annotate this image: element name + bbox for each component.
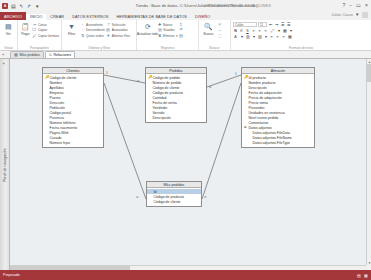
gridlines-icon[interactable]: ▥ (245, 34, 250, 39)
field-label[interactable]: Código de cliente (153, 200, 181, 204)
field-label[interactable]: Vendedor (152, 106, 168, 110)
nav-pane-expand-icon[interactable]: » (3, 61, 5, 66)
quick-access-toolbar[interactable]: A ▤ ↰ ↱ ▾ (0, 3, 40, 9)
align-left-icon[interactable]: ≡ (251, 28, 256, 33)
italic-button[interactable]: K (239, 28, 244, 33)
field-label[interactable]: Precio de adquisición (248, 96, 282, 100)
field-label[interactable]: Nombre producto (248, 81, 276, 85)
field-label[interactable]: Datos adjuntos.FileData (248, 131, 290, 135)
field-label[interactable]: Unidades en existencia (248, 111, 285, 115)
field-label[interactable]: Página Web (49, 131, 69, 135)
field-label[interactable]: Fecha nacimiento (49, 126, 78, 130)
field-label[interactable]: Puesto (49, 96, 61, 100)
ribbon-tabstrip[interactable]: ARCHIVO INICIO CREAR DATOS EXTERNOS HERR… (0, 11, 371, 20)
field-label[interactable]: Cantidad (152, 96, 167, 100)
increase-indent-icon[interactable]: ⇥ (274, 22, 279, 27)
status-view-buttons[interactable]: ▤ ▦ (357, 273, 371, 278)
seleccionar-button[interactable]: ⬚ (217, 33, 222, 38)
field-label[interactable]: Dirección (49, 101, 65, 105)
field-label[interactable]: Descripción (248, 86, 267, 90)
background-color-icon[interactable]: ▧ (257, 34, 262, 39)
quitar-orden-button[interactable]: ⇅ Quitar orden (80, 33, 105, 38)
layout-icon[interactable]: ▤ (357, 273, 361, 278)
field-label[interactable]: Código de producto (152, 91, 184, 95)
close-icon[interactable]: × (365, 3, 368, 8)
font-name-combo[interactable]: Calibri (233, 22, 257, 27)
user-account-area[interactable]: Julián Casas ▾ (331, 12, 368, 18)
bold-button[interactable]: N (233, 28, 238, 33)
datasheet-icon[interactable]: ▦ (287, 34, 292, 39)
ir-a-button[interactable]: → (217, 28, 222, 33)
align-middle-icon[interactable]: ≡ (275, 34, 280, 39)
borders-icon[interactable]: ▦ (282, 28, 287, 33)
field-label[interactable]: Datos adjuntos.FileType (248, 141, 291, 145)
field-label[interactable]: Apellidos (49, 86, 64, 90)
buscar-button[interactable]: 🔍 Buscar (201, 21, 216, 36)
field-label[interactable]: Servido (152, 111, 165, 115)
doctab-relaciones[interactable]: ⧉ Relaciones (45, 51, 75, 58)
restore-icon[interactable]: ▭ (356, 3, 361, 8)
ver-button[interactable]: ▤ Ver (2, 21, 15, 36)
field-label[interactable]: Código de producto (153, 195, 185, 199)
navigation-pane[interactable]: » Panel de navegación (0, 59, 10, 270)
redo-icon[interactable]: ↱ (26, 3, 32, 9)
font-color-icon[interactable]: A (233, 34, 238, 39)
field-label[interactable]: Descripción (152, 116, 171, 120)
highlight-icon[interactable]: 🖍 (269, 28, 275, 33)
field-label[interactable]: Proveedor (248, 106, 265, 110)
field-label[interactable]: Id producto (248, 76, 267, 80)
minimize-icon[interactable]: − (349, 3, 352, 8)
alternar-filtro-button[interactable]: ▼ Alternar filtro (106, 33, 130, 38)
table-box-mas-pedidos[interactable]: Más pedidos Id Código de producto Código… (146, 181, 202, 207)
field-label[interactable]: Código de cliente (49, 76, 77, 80)
vertical-scroll-thumb[interactable] (367, 64, 371, 82)
field-label[interactable]: Precio venta (248, 101, 268, 105)
tab-archivo[interactable]: ARCHIVO (0, 12, 26, 20)
doctab-mas-pedidos[interactable]: ▦ Más pedidos (10, 51, 44, 58)
field-label[interactable]: Nombre (49, 81, 62, 85)
field-label[interactable]: Número de pedido (152, 81, 182, 85)
field-label[interactable]: Población (49, 106, 65, 110)
field-label[interactable]: Número teléfono (49, 121, 76, 125)
relationships-canvas[interactable]: 1 ∞ ∞ 1 ∞ ∞ Clientes 🔑Código de cliente … (10, 59, 366, 270)
align-center-icon[interactable]: ≡ (257, 28, 262, 33)
ascendente-button[interactable]: ↑ Ascendente (80, 22, 105, 27)
undo-icon[interactable]: ↰ (18, 3, 24, 9)
pegar-button[interactable]: 📋 Pegar (20, 21, 31, 36)
gridlines-dropdown-icon[interactable]: ▾ (251, 34, 256, 39)
vertical-scrollbar[interactable]: ▲ ▼ (366, 59, 371, 265)
align-bottom-icon[interactable]: ≡ (269, 34, 274, 39)
field-label[interactable]: Número hijos (49, 141, 71, 145)
bullets-icon[interactable]: ☰ (280, 22, 285, 27)
table-box-almacen[interactable]: Almacén 🔑Id producto Nombre producto Des… (241, 67, 315, 148)
field-label[interactable]: Id (153, 190, 157, 194)
align-top-icon[interactable]: ≡ (281, 34, 286, 39)
chevron-down-icon[interactable]: ▾ (356, 12, 359, 17)
filtro-button[interactable]: ▼ Filtro (64, 21, 79, 36)
field-label[interactable]: Código de cliente (152, 86, 180, 90)
window-buttons[interactable]: ? − ▭ × (342, 3, 371, 8)
background-dropdown-icon[interactable]: ▾ (263, 34, 268, 39)
revision-ortografica-button[interactable]: ᵃᵇ (179, 28, 184, 33)
field-label[interactable]: Datos adjuntos.FileName (248, 136, 292, 140)
design-icon[interactable]: ▦ (364, 273, 368, 278)
field-label[interactable]: Fecha de venta (152, 101, 177, 105)
table-box-pedidos[interactable]: Pedidos 🔑Código de pedido Número de pedi… (145, 67, 207, 123)
access-app-icon[interactable]: A (2, 3, 8, 9)
font-size-combo[interactable]: 11 (258, 22, 267, 27)
mas-button[interactable]: ▤ (179, 33, 184, 38)
field-label[interactable]: Datos adjuntos (248, 126, 272, 130)
table-box-clientes[interactable]: Clientes 🔑Código de cliente Nombre Apell… (42, 67, 104, 148)
field-label[interactable]: Provincia (49, 116, 64, 120)
document-tabs[interactable]: « ▦ Más pedidos ⧉ Relaciones (0, 51, 371, 59)
field-label[interactable]: Código postal (49, 111, 71, 115)
numbering-icon[interactable]: ☰ (286, 22, 291, 27)
field-label[interactable]: Nivel nuevo pedido (248, 116, 279, 120)
scroll-down-icon[interactable]: ▼ (367, 260, 371, 265)
descendente-button[interactable]: ↓ Descendente (80, 28, 105, 33)
borders-dropdown-icon[interactable]: ▾ (288, 28, 293, 33)
field-label[interactable]: Empresa (49, 91, 64, 95)
ribbon-options-icon[interactable] (362, 12, 368, 18)
field-label[interactable]: Código de pedido (152, 76, 180, 80)
font-color-dropdown-icon[interactable]: ▾ (239, 34, 244, 39)
